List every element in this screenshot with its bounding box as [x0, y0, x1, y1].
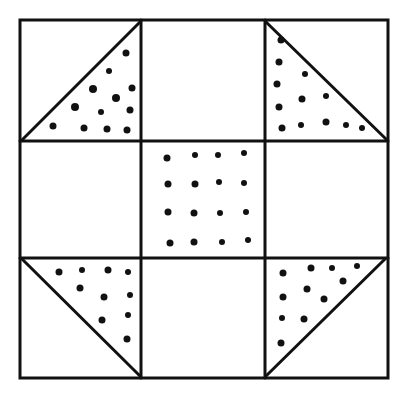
dots-center	[164, 150, 252, 247]
dots-top-right	[274, 37, 366, 132]
quilt-block-drawing	[0, 0, 404, 394]
dots-bottom-right	[278, 263, 361, 347]
diagonal-bottom-left	[22, 259, 140, 376]
outer-border	[20, 20, 388, 378]
dots-top-left	[50, 50, 136, 134]
diagonal-top-left	[22, 22, 140, 140]
